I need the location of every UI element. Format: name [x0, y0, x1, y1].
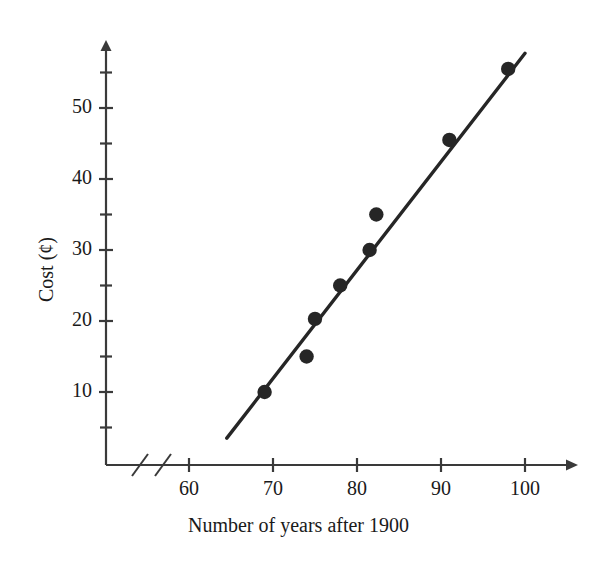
data-point	[257, 385, 271, 399]
axes-group	[101, 40, 579, 471]
x-tick-label: 70	[243, 477, 303, 500]
x-tick-label: 60	[159, 477, 219, 500]
x-axis-title: Number of years after 1900	[0, 514, 597, 537]
data-point	[308, 312, 322, 326]
y-tick-label: 20	[72, 308, 92, 331]
data-point	[362, 243, 376, 257]
trend-line	[227, 53, 525, 438]
data-point	[442, 133, 456, 147]
y-tick-label: 40	[72, 166, 92, 189]
scatter-plot-figure: 1020304050 60708090100 Cost (¢) Number o…	[0, 0, 597, 562]
data-point	[369, 207, 383, 221]
axis-ticks-group	[99, 73, 525, 473]
y-axis-title: Cost (¢)	[35, 210, 58, 330]
x-tick-label: 100	[495, 477, 555, 500]
x-tick-label: 90	[411, 477, 471, 500]
y-tick-label: 10	[72, 379, 92, 402]
y-tick-label: 50	[72, 95, 92, 118]
y-tick-label: 30	[72, 237, 92, 260]
data-point	[333, 278, 347, 292]
data-point	[501, 62, 515, 76]
data-point	[299, 349, 313, 363]
x-tick-label: 80	[327, 477, 387, 500]
